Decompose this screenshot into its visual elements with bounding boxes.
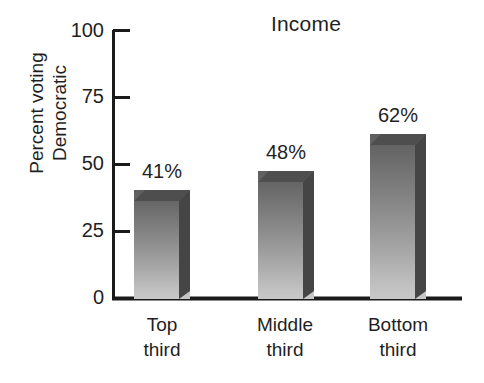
x-tick-label-middle-third: Middle third: [235, 312, 335, 362]
x-tick-label-top-third: Top third: [112, 312, 212, 362]
bar-bottom-third-3d-faces: [370, 134, 426, 299]
bar-middle-third-3d-faces: [258, 171, 314, 299]
bar-chart: Income Percent voting Democratic 100 75 …: [0, 0, 484, 383]
bar-top-third-side: [179, 190, 190, 299]
bar-middle-third: [258, 171, 314, 299]
x-tick-label-top-third-line1: Top: [112, 312, 212, 337]
bar-middle-third-side: [303, 171, 314, 299]
x-tick-label-bottom-third-line2: third: [348, 337, 448, 362]
bar-value-top-third: 41%: [114, 160, 210, 183]
bar-bottom-third: [370, 134, 426, 299]
bar-value-bottom-third: 62%: [350, 104, 446, 127]
x-tick-label-middle-third-line1: Middle: [235, 312, 335, 337]
x-tick-label-top-third-line2: third: [112, 337, 212, 362]
bar-value-middle-third: 48%: [238, 141, 334, 164]
bar-bottom-third-side: [415, 134, 426, 299]
x-tick-label-middle-third-line2: third: [235, 337, 335, 362]
bar-top-third-3d-faces: [134, 190, 190, 299]
x-tick-label-bottom-third: Bottom third: [348, 312, 448, 362]
x-tick-label-bottom-third-line1: Bottom: [348, 312, 448, 337]
bar-top-third: [134, 190, 190, 299]
